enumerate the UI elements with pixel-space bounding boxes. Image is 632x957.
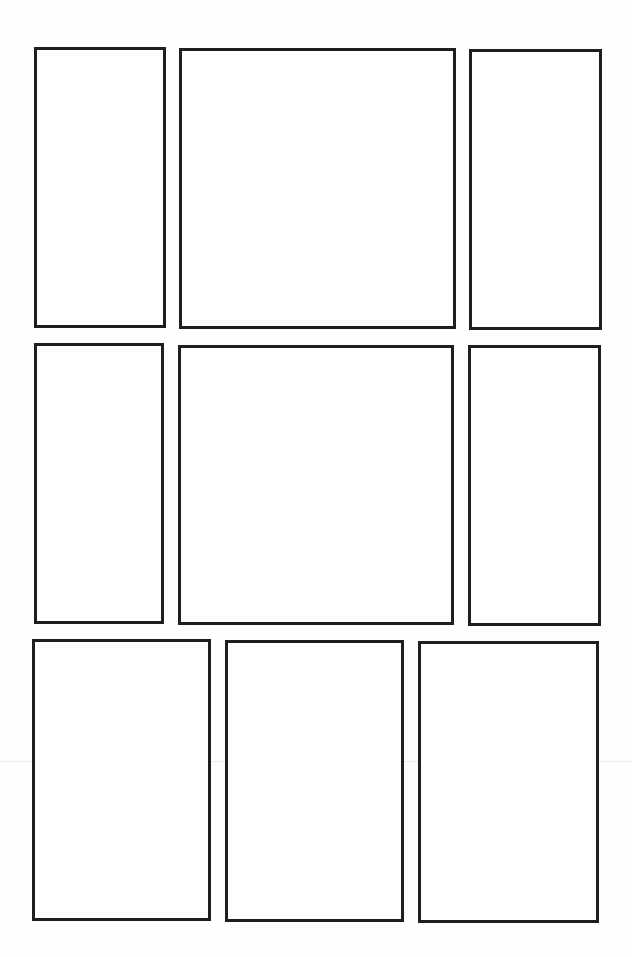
- panel-8: [225, 640, 404, 922]
- panel-5: [178, 345, 454, 625]
- panel-6: [468, 345, 601, 626]
- panel-9: [418, 641, 599, 923]
- panel-4: [34, 343, 164, 624]
- panel-7: [32, 639, 211, 921]
- panel-1: [34, 47, 166, 328]
- panel-2: [179, 48, 456, 329]
- comic-page: [0, 0, 632, 957]
- panel-3: [469, 49, 602, 330]
